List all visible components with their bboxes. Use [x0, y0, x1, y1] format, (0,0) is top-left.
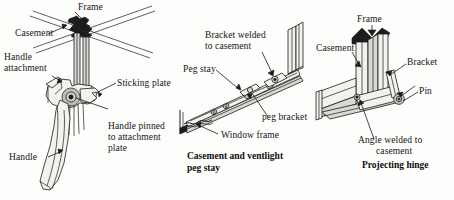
caption-peg-stay-line1: Casement and ventlight [187, 151, 283, 162]
label-sticking-plate: Sticking plate [117, 78, 171, 89]
label-bracket: Bracket [407, 57, 437, 68]
label-handle: Handle [9, 152, 37, 163]
label-frame-projecting-hinge: Frame [357, 14, 382, 25]
label-bracket-welded-line1: Bracket welded [205, 30, 266, 41]
label-casement-projecting-hinge: Casement [316, 43, 354, 54]
label-pin: Pin [419, 86, 432, 97]
label-handle-attachment-line2: attachment [4, 63, 47, 74]
label-frame-casement-handle: Frame [78, 2, 103, 13]
figure-canvas: Frame Casement Handle attachment Stickin… [0, 0, 454, 200]
label-angle-welded-line1: Angle welded to [358, 135, 422, 146]
label-handle-pinned-line2: to attachment [108, 132, 161, 143]
label-angle-welded-line2: casement [376, 146, 412, 157]
label-casement-handle-diagram: Casement [15, 28, 53, 39]
label-bracket-welded-line2: to casement [205, 41, 251, 52]
label-handle-pinned-line1: Handle pinned [108, 121, 165, 132]
caption-projecting-hinge: Projecting hinge [362, 160, 429, 171]
label-peg-bracket: peg bracket [262, 112, 307, 123]
label-window-frame: Window frame [221, 130, 279, 141]
caption-peg-stay-line2: peg stay [187, 163, 220, 174]
label-handle-pinned-line3: plate [108, 143, 127, 154]
label-peg-stay: Peg stay [183, 64, 216, 75]
label-handle-attachment-line1: Handle [4, 52, 32, 63]
